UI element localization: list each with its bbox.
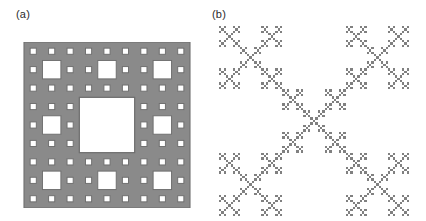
- panel-a-label: (a): [16, 9, 30, 20]
- cross-fractal-cell: [280, 171, 282, 173]
- cross-fractal-cell: [374, 186, 376, 188]
- cross-fractal-cell: [238, 167, 240, 169]
- cross-fractal-cell: [350, 31, 352, 33]
- cross-fractal-cell: [238, 200, 240, 202]
- cross-fractal-cell: [388, 171, 390, 173]
- cross-fractal-cell: [280, 87, 282, 89]
- carpet-hole: [178, 196, 184, 202]
- cross-fractal-cell: [219, 195, 221, 197]
- cross-fractal-cell: [275, 200, 277, 202]
- cross-fractal-cell: [367, 47, 369, 49]
- cross-fractal-cell: [402, 73, 404, 75]
- cross-fractal-cell: [336, 101, 338, 103]
- cross-fractal-cell: [367, 66, 369, 68]
- carpet-hole: [67, 177, 73, 183]
- cross-fractal-cell: [346, 153, 348, 155]
- cross-fractal-cell: [233, 87, 235, 89]
- cross-fractal-cell: [386, 66, 388, 68]
- cross-fractal-cell: [374, 181, 376, 183]
- cross-fractal-cell: [353, 164, 355, 166]
- cross-fractal-cell: [240, 61, 242, 63]
- cross-fractal-cell: [268, 207, 270, 209]
- cross-fractal-cell: [357, 164, 359, 166]
- cross-fractal-cell: [325, 146, 327, 148]
- cross-fractal-cell: [261, 87, 263, 89]
- cross-fractal-cell: [238, 195, 240, 197]
- cross-fractal-cell: [407, 209, 409, 211]
- cross-fractal-cell: [275, 171, 277, 173]
- cross-fractal-cell: [219, 26, 221, 28]
- cross-fractal-cell: [334, 141, 336, 143]
- cross-fractal-cell: [240, 52, 242, 54]
- cross-fractal-cell: [362, 28, 364, 30]
- cross-fractal-cell: [280, 200, 282, 202]
- carpet-hole: [178, 122, 184, 128]
- cross-fractal-cell: [221, 28, 223, 30]
- cross-fractal-cell: [271, 35, 273, 37]
- cross-fractal-cell: [233, 68, 235, 70]
- cross-fractal-cell: [400, 75, 402, 77]
- cross-fractal-cell: [318, 129, 320, 131]
- cross-fractal-cell: [226, 160, 228, 162]
- cross-fractal-cell: [395, 164, 397, 166]
- cross-fractal-cell: [278, 197, 280, 199]
- cross-fractal-cell: [371, 178, 373, 180]
- cross-fractal-cell: [346, 171, 348, 173]
- cross-fractal-cell: [301, 103, 303, 105]
- cross-fractal-cell: [221, 155, 223, 157]
- cross-fractal-cell: [364, 82, 366, 84]
- cross-fractal-cell: [224, 157, 226, 159]
- cross-fractal-cell: [381, 193, 383, 195]
- cross-fractal-cell: [402, 26, 404, 28]
- cross-fractal-cell: [381, 174, 383, 176]
- cross-fractal-cell: [278, 211, 280, 213]
- cross-fractal-cell: [360, 31, 362, 33]
- cross-fractal-cell: [348, 42, 350, 44]
- cross-fractal-cell: [254, 52, 256, 54]
- cross-fractal-cell: [322, 129, 324, 131]
- cross-fractal-cell: [336, 143, 338, 145]
- cross-fractal-cell: [407, 153, 409, 155]
- cross-fractal-cell: [362, 155, 364, 157]
- cross-fractal-cell: [280, 153, 282, 155]
- cross-fractal-cell: [280, 195, 282, 197]
- cross-fractal-cell: [233, 195, 235, 197]
- cross-fractal-cell: [402, 45, 404, 47]
- cross-fractal-cell: [341, 106, 343, 108]
- cross-fractal-cell: [280, 26, 282, 28]
- cross-fractal-cell: [228, 162, 230, 164]
- cross-fractal-cell: [235, 85, 237, 87]
- cross-fractal-cell: [357, 80, 359, 82]
- cross-fractal-cell: [325, 103, 327, 105]
- cross-fractal-cell: [299, 134, 301, 136]
- cross-fractal-cell: [219, 209, 221, 211]
- cross-fractal-cell: [374, 54, 376, 56]
- cross-fractal-cell: [259, 52, 261, 54]
- cross-fractal-cell: [364, 153, 366, 155]
- cross-fractal-cell: [393, 87, 395, 89]
- cross-fractal-cell: [264, 71, 266, 73]
- carpet-hole: [141, 122, 147, 128]
- carpet-hole: [141, 140, 147, 146]
- cross-fractal-cell: [348, 28, 350, 30]
- cross-fractal-cell: [402, 167, 404, 169]
- cross-fractal-cell: [231, 164, 233, 166]
- cross-fractal-cell: [275, 68, 277, 70]
- cross-fractal-cell: [407, 82, 409, 84]
- carpet-hole: [141, 196, 147, 202]
- cross-fractal-cell: [348, 169, 350, 171]
- cross-fractal-cell: [327, 92, 329, 94]
- cross-fractal-cell: [306, 127, 308, 129]
- carpet-hole: [141, 67, 147, 73]
- cross-fractal-cell: [329, 146, 331, 148]
- cross-fractal-cell: [353, 75, 355, 77]
- cross-fractal-cell: [221, 71, 223, 73]
- cross-fractal-cell: [264, 42, 266, 44]
- cross-fractal-cell: [257, 176, 259, 178]
- cross-fractal-cell: [273, 80, 275, 82]
- cross-fractal-cell: [355, 35, 357, 37]
- cross-fractal-cell: [228, 78, 230, 80]
- cross-fractal-cell: [407, 26, 409, 28]
- cross-fractal-cell: [346, 209, 348, 211]
- cross-fractal-cell: [404, 71, 406, 73]
